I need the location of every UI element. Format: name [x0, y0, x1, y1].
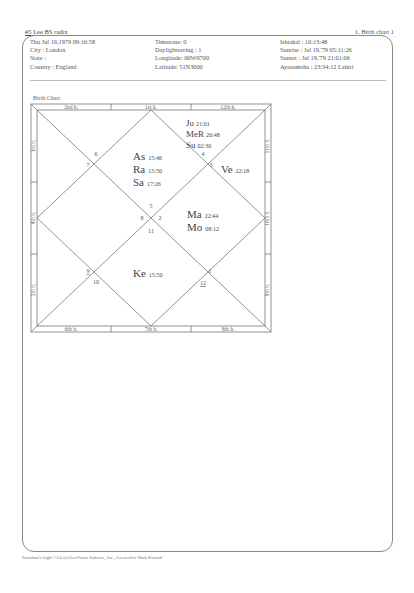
svg-text:Ma22:44: Ma22:44: [187, 208, 218, 220]
planet-degree: 15:50: [149, 272, 163, 278]
sign-number: 1: [209, 268, 212, 274]
svg-text:Ke15:50: Ke15:50: [133, 267, 163, 279]
sign-number: 10: [93, 279, 99, 285]
sign-number: 6: [95, 151, 98, 157]
svg-text:Mo08:12: Mo08:12: [187, 221, 219, 233]
sign-number: 4: [202, 151, 205, 157]
planet-degree: 20:48: [206, 132, 220, 138]
footer-license: Parashara's Light 7.0.4 (c) GeoVision So…: [22, 555, 162, 560]
planet-name: Ke: [133, 267, 146, 279]
planet-degree: 15:50: [148, 168, 162, 174]
planet-name: Ju: [186, 118, 195, 128]
planet-name: Ra: [133, 163, 145, 175]
north-indian-chart: 2nd h. 1st h. 12th h. 6th h. 7th h. 8th …: [0, 0, 414, 593]
label-10th-house: 10th h.: [264, 210, 270, 226]
label-6th-house: 6th h.: [65, 326, 78, 332]
sign-number: 8: [141, 215, 144, 221]
planet-name: Su: [186, 140, 196, 150]
label-4th-house: 4th h.: [30, 211, 36, 224]
planet-degree: 08:12: [205, 226, 219, 232]
planet-degree: 22:44: [205, 213, 219, 219]
label-8th-house: 8th h.: [222, 326, 235, 332]
label-1st-house: 1st h.: [145, 104, 158, 110]
planet-degree: 02:30: [198, 143, 212, 149]
sign-number: 5: [150, 203, 153, 209]
label-5th-house: 5th h.: [30, 283, 36, 296]
svg-text:Ju21:01: Ju21:01: [186, 118, 210, 128]
svg-text:MeR20:48: MeR20:48: [186, 129, 220, 139]
label-9th-house: 9th h.: [264, 283, 270, 296]
planet-name: Sa: [133, 176, 144, 188]
sign-number: 7: [87, 162, 90, 168]
label-11th-house: 11th h.: [264, 138, 270, 154]
svg-text:Sa17:26: Sa17:26: [133, 176, 161, 188]
sign-number: 9: [87, 268, 90, 274]
label-3rd-house: 3rd h.: [30, 139, 36, 152]
planet-name: MeR: [186, 129, 204, 139]
planet-degree: 22:18: [236, 168, 250, 174]
planet-degree: 21:01: [196, 121, 210, 127]
planet-name: Mo: [187, 221, 203, 233]
label-2nd-house: 2nd h.: [64, 104, 78, 110]
planet-name: As: [133, 150, 145, 162]
sign-number: 11: [148, 228, 154, 234]
planet-degree: 17:26: [147, 181, 161, 187]
label-7th-house: 7th h.: [145, 326, 158, 332]
sign-number: 2: [159, 215, 162, 221]
svg-text:Su02:30: Su02:30: [186, 140, 211, 150]
svg-text:Ra15:50: Ra15:50: [133, 163, 162, 175]
sign-number: 12: [200, 280, 206, 286]
svg-text:Ve22:18: Ve22:18: [221, 163, 249, 175]
planet-name: Ma: [187, 208, 202, 220]
svg-text:As15:46: As15:46: [133, 150, 162, 162]
label-12th-house: 12th h.: [220, 104, 236, 110]
planet-name: Ve: [221, 163, 233, 175]
sign-number: 3: [210, 162, 213, 168]
planet-degree: 15:46: [148, 155, 162, 161]
